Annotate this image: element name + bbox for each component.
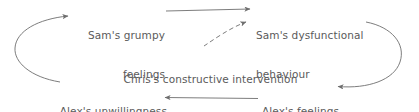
arrow-grumpy-to-dysfunctional — [166, 9, 250, 11]
arrow-chris-intervention-to-dysfunctional — [204, 22, 246, 46]
causal-loop-diagram: Sam's grumpy feelings Sam's dysfunctiona… — [0, 0, 419, 112]
node-alexs-unwillingness: Alex's unwillingness to support Sam — [52, 79, 167, 112]
node-alexs-feelings: Alex's feelings that Sam is hostile — [262, 79, 372, 112]
node-line: Alex's feelings — [262, 105, 372, 112]
node-line: Sam's grumpy — [60, 29, 165, 42]
node-line: Alex's unwillingness — [52, 105, 167, 112]
node-line: Sam's dysfunctional — [256, 29, 376, 42]
